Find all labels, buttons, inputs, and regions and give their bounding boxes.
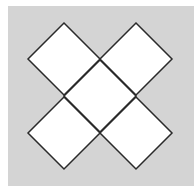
diagram-canvas <box>0 0 194 188</box>
